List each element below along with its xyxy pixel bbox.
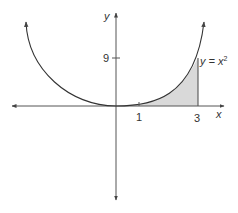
x-tick-label-3: 3 [194,112,200,124]
x-tick-label-1: 1 [136,111,142,123]
x-axis-label: x [215,108,222,120]
y-tick-label-9: 9 [103,52,109,64]
function-label-exponent: 2 [224,55,228,62]
shaded-area-region [116,58,198,106]
function-graph: 1 3 9 x y y = x2 [0,0,238,213]
function-label: y = x2 [199,55,228,67]
function-label-text: y = x [199,55,224,67]
y-axis-label: y [103,10,111,22]
